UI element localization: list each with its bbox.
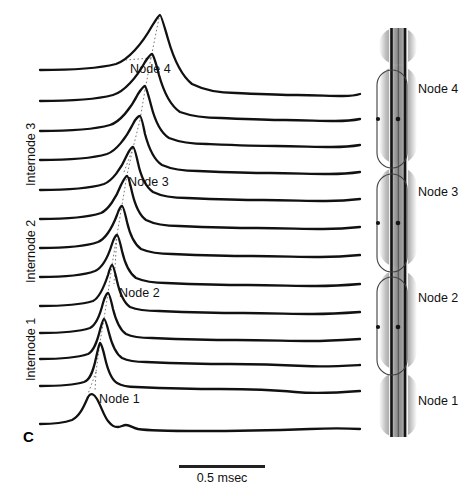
trace-13-node4 <box>40 15 360 96</box>
scale-bar-line <box>179 465 265 468</box>
diagram-label-node-4: Node 4 <box>418 82 458 96</box>
trace-label-node-1: Node 1 <box>99 392 140 406</box>
diagram-label-node-1: Node 1 <box>418 394 458 408</box>
diagram-label-node-3: Node 3 <box>418 185 458 199</box>
trace-label-node-4: Node 4 <box>130 62 171 76</box>
trace-02-node1 <box>40 343 360 393</box>
trace-06-node2 <box>40 235 360 286</box>
diagram-label-node-2: Node 2 <box>418 291 458 305</box>
scale-bar: 0.5 msec <box>179 465 265 485</box>
axon-diagram <box>376 28 417 437</box>
scale-bar-label: 0.5 msec <box>179 471 265 485</box>
trace-04 <box>40 293 360 341</box>
figure-panel-c: Node 4 Node 3 Node 2 Node 1 Internode 3 … <box>0 0 475 493</box>
action-potential-traces-plot <box>0 0 475 493</box>
panel-letter: C <box>23 428 34 445</box>
trace-label-node-2: Node 2 <box>119 286 160 300</box>
trace-03 <box>40 319 360 366</box>
axis-label-internode-2: Internode 2 <box>24 220 38 283</box>
axis-label-internode-3: Internode 3 <box>24 123 38 186</box>
trace-01 <box>40 394 360 431</box>
trace-label-node-3: Node 3 <box>128 175 169 189</box>
trace-08 <box>40 176 360 229</box>
axis-label-internode-1: Internode 1 <box>24 318 38 381</box>
trace-07 <box>40 206 360 257</box>
